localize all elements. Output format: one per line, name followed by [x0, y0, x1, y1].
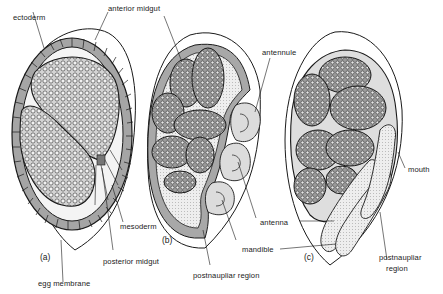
panel-label-b: (b) [162, 236, 172, 245]
label-egg-membrane: egg membrane [38, 280, 90, 288]
label-antennule: antennule [262, 49, 296, 57]
label-postnaupliar-region-c-line2: region [386, 265, 408, 273]
panel-label-c: (c) [304, 253, 314, 262]
panel-c-drawing [280, 32, 405, 265]
embryo-figure [0, 0, 443, 294]
label-mesoderm: mesoderm [120, 223, 157, 231]
label-anterior-midgut: anterior midgut [108, 5, 160, 13]
panel-a-drawing [12, 12, 135, 282]
label-posterior-midgut: posterior midgut [103, 258, 159, 266]
label-antenna: antenna [260, 219, 288, 227]
panel-label-a: (a) [40, 253, 50, 262]
label-mouth: mouth [408, 166, 430, 174]
label-ectoderm: ectoderm [13, 14, 45, 22]
label-postnaupliar-region-c-line1: postnaupliar [379, 254, 422, 262]
label-postnaupliar-region-b: postnaupliar region [193, 272, 260, 280]
label-mandible: mandible [242, 246, 274, 254]
panel-b-drawing [147, 16, 270, 265]
